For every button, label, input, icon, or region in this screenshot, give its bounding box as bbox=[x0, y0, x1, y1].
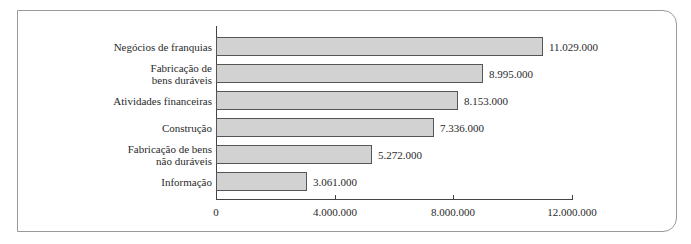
value-label: 8.995.000 bbox=[489, 68, 533, 80]
category-label: Fabricação de bens não duráveis bbox=[12, 143, 212, 167]
bar bbox=[216, 91, 458, 110]
x-axis bbox=[216, 199, 573, 200]
category-label: Construção bbox=[12, 122, 212, 134]
x-tick bbox=[453, 195, 454, 199]
bar bbox=[216, 37, 543, 56]
x-tick-label: 0 bbox=[213, 206, 219, 218]
bar bbox=[216, 172, 307, 191]
category-label: Fabricação de bens duráveis bbox=[12, 62, 212, 86]
value-label: 11.029.000 bbox=[549, 41, 598, 53]
category-label: Atividades financeiras bbox=[12, 95, 212, 107]
value-label: 7.336.000 bbox=[440, 122, 484, 134]
bar-chart: Negócios de franquias 11.029.000 Fabrica… bbox=[0, 0, 691, 244]
bar bbox=[216, 145, 372, 164]
bar bbox=[216, 64, 483, 83]
x-tick-label: 12.000.000 bbox=[547, 206, 597, 218]
bar bbox=[216, 118, 434, 137]
value-label: 3.061.000 bbox=[313, 176, 357, 188]
value-label: 8.153.000 bbox=[464, 95, 508, 107]
x-tick bbox=[335, 195, 336, 199]
category-label: Informação bbox=[12, 176, 212, 188]
x-tick bbox=[572, 195, 573, 199]
category-label: Negócios de franquias bbox=[12, 41, 212, 53]
x-tick-label: 4.000.000 bbox=[313, 206, 357, 218]
value-label: 5.272.000 bbox=[378, 149, 422, 161]
x-tick-label: 8.000.000 bbox=[431, 206, 475, 218]
